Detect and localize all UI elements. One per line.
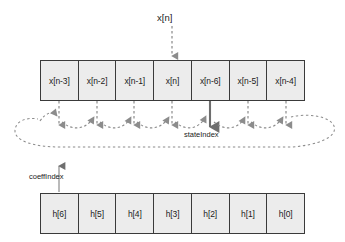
input-signal-label: x[n] xyxy=(157,12,172,23)
state-cell-1: x[n-2] xyxy=(79,61,117,100)
state-cell-5: x[n-5] xyxy=(230,61,268,100)
state-cell-6: x[n-4] xyxy=(267,61,304,100)
state-tap-arrows xyxy=(59,101,286,125)
coeff-cell-5: h[1] xyxy=(230,194,268,233)
coeff-cell-0: h[6] xyxy=(41,194,79,233)
state-index-label: stateIndex xyxy=(184,130,219,139)
coeff-cell-2: h[4] xyxy=(116,194,154,233)
circular-buffer-diagram: x[n] x[n-3] x[n-2] x[n-1] x[n] x[n-6] x[… xyxy=(0,0,345,242)
state-buffer: x[n-3] x[n-2] x[n-1] x[n] x[n-6] x[n-5] … xyxy=(40,60,305,101)
buffer-advance-path xyxy=(40,113,283,128)
coeff-index-label: coeffIndex xyxy=(29,172,63,181)
state-cell-3: x[n] xyxy=(154,61,192,100)
state-cell-0: x[n-3] xyxy=(41,61,79,100)
coeff-cell-4: h[2] xyxy=(192,194,230,233)
coefficient-buffer: h[6] h[5] h[4] h[3] h[2] h[1] h[0] xyxy=(40,193,305,234)
state-cell-4: x[n-6] xyxy=(192,61,230,100)
coeff-cell-6: h[0] xyxy=(267,194,304,233)
state-cell-2: x[n-1] xyxy=(116,61,154,100)
coeff-cell-1: h[5] xyxy=(79,194,117,233)
coeff-cell-3: h[3] xyxy=(154,194,192,233)
wrap-around-loop xyxy=(15,115,335,147)
